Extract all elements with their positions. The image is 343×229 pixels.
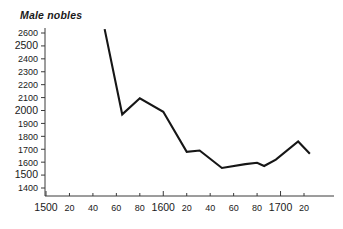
- x-axis-tick-label: 60: [229, 203, 239, 213]
- y-axis-tick-label: 2600: [18, 28, 38, 38]
- chart-plot-area: 1400150016001700180019002000210022002300…: [0, 0, 343, 229]
- x-axis-tick-label: 1600: [152, 201, 176, 213]
- x-axis: 150020406080160020406080170020: [34, 191, 334, 213]
- y-axis-tick-label: 1700: [18, 145, 38, 155]
- x-axis-tick-label: 1700: [269, 201, 293, 213]
- y-axis-tick-label: 2100: [18, 93, 38, 103]
- data-line-male-nobles: [105, 29, 310, 168]
- x-axis-tick-label: 20: [182, 203, 192, 213]
- y-axis-tick-label: 2500: [15, 39, 39, 51]
- x-axis-tick-label: 80: [252, 203, 262, 213]
- y-axis-tick-label: 2000: [15, 104, 39, 116]
- y-axis-tick-label: 1600: [18, 158, 38, 168]
- y-axis-tick-label: 1500: [15, 168, 39, 180]
- y-axis: 1400150016001700180019002000210022002300…: [15, 28, 45, 196]
- y-axis-tick-label: 1400: [18, 183, 38, 193]
- y-axis-tick-label: 2200: [18, 80, 38, 90]
- x-axis-tick-label: 40: [205, 203, 215, 213]
- data-series-group: [105, 29, 310, 168]
- y-axis-tick-label: 2300: [18, 67, 38, 77]
- y-axis-tick-label: 1800: [18, 132, 38, 142]
- x-axis-tick-label: 20: [299, 203, 309, 213]
- chart-container: Male nobles 1400150016001700180019002000…: [0, 0, 343, 229]
- x-axis-tick-label: 60: [111, 203, 121, 213]
- x-axis-tick-label: 40: [88, 203, 98, 213]
- y-axis-tick-label: 1900: [18, 119, 38, 129]
- y-axis-tick-label: 2400: [18, 54, 38, 64]
- x-axis-tick-label: 1500: [34, 201, 58, 213]
- x-axis-tick-label: 80: [135, 203, 145, 213]
- x-axis-tick-label: 20: [64, 203, 74, 213]
